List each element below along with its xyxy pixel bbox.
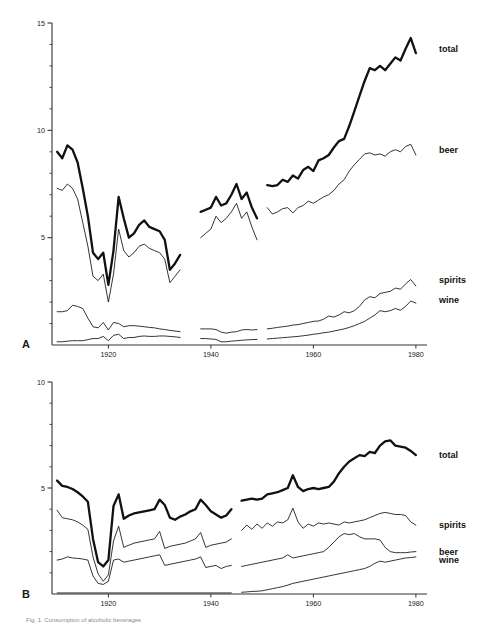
panel-a: 510151920194019601980totalbeerspiritswin… bbox=[0, 0, 493, 360]
series-line-wine bbox=[57, 334, 180, 342]
series-line-wine bbox=[267, 301, 416, 339]
x-tick-label: 1980 bbox=[408, 599, 424, 608]
y-tick-label: 5 bbox=[41, 233, 45, 242]
x-tick-label: 1960 bbox=[305, 350, 321, 359]
series-label-wine: wine bbox=[438, 555, 459, 565]
series-line-total bbox=[242, 440, 416, 500]
series-line-spirits bbox=[57, 510, 231, 581]
series-line-spirits bbox=[201, 329, 257, 333]
series-line-wine bbox=[242, 557, 416, 592]
series-line-spirits bbox=[242, 508, 416, 530]
series-label-spirits: spirits bbox=[439, 520, 466, 530]
panel-a-plot: 510151920194019601980totalbeerspiritswin… bbox=[0, 0, 493, 360]
series-line-total bbox=[267, 38, 416, 186]
series-label-beer: beer bbox=[439, 145, 459, 155]
x-tick-label: 1980 bbox=[408, 350, 424, 359]
panel-b: 5101920194019601980totalspiritsbeerwine … bbox=[0, 360, 493, 610]
series-label-wine: wine bbox=[438, 295, 459, 305]
series-line-total bbox=[57, 145, 180, 285]
series-line-total bbox=[201, 184, 257, 218]
y-tick-label: 15 bbox=[37, 19, 45, 28]
x-tick-label: 1920 bbox=[100, 350, 116, 359]
series-line-total bbox=[57, 481, 231, 567]
series-label-spirits: spirits bbox=[439, 275, 466, 285]
y-tick-label: 10 bbox=[37, 126, 45, 135]
panel-b-letter: B bbox=[22, 588, 30, 600]
figure-alcohol-consumption: 510151920194019601980totalbeerspiritswin… bbox=[0, 0, 493, 625]
y-tick-label: 5 bbox=[41, 484, 45, 493]
figure-caption: Fig. 1. Consumption of alcoholic beverag… bbox=[26, 617, 486, 625]
series-line-spirits bbox=[57, 305, 180, 331]
series-label-total: total bbox=[439, 450, 458, 460]
panel-b-plot: 5101920194019601980totalspiritsbeerwine bbox=[0, 360, 493, 610]
series-line-beer bbox=[57, 555, 231, 585]
panel-a-letter: A bbox=[22, 338, 30, 350]
series-line-spirits bbox=[267, 280, 416, 329]
series-label-total: total bbox=[439, 44, 458, 54]
series-line-wine bbox=[201, 339, 257, 342]
x-tick-label: 1940 bbox=[203, 350, 219, 359]
x-tick-label: 1940 bbox=[203, 599, 219, 608]
y-tick-label: 10 bbox=[37, 378, 45, 387]
x-tick-label: 1920 bbox=[100, 599, 116, 608]
x-tick-label: 1960 bbox=[305, 599, 321, 608]
